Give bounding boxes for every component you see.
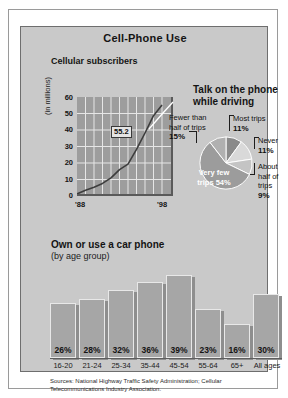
pie-label-most-trips: Most trips 11% (233, 114, 279, 133)
line-chart-ylabel: (in millions) (43, 77, 52, 115)
bar-chart-subtitle: (by age group) (51, 251, 110, 261)
bar-chart-plot-area: 26% 28% 32% 36% 39% (50, 263, 282, 358)
y-tick-0: 0 (53, 191, 73, 200)
y-tick-50: 50 (53, 109, 73, 118)
y-tick-20: 20 (53, 158, 73, 167)
bar-category-16-20: 16-20 (48, 361, 78, 370)
line-chart-title: Cellular subscribers (51, 56, 138, 66)
leader-most-horizontal (229, 115, 234, 116)
pie-label-about-pct: 9% (258, 191, 270, 200)
y-tick-60: 60 (53, 93, 73, 102)
bar-value-16-20: 26% (50, 345, 76, 355)
x-tick-98: '98 (157, 200, 167, 209)
bar-category-35-44: 35-44 (135, 361, 165, 370)
leader-fewer-vertical (196, 131, 197, 143)
bar-category-65-plus: 65+ (222, 361, 252, 370)
bar-category-25-34: 25-34 (106, 361, 136, 370)
bar-category-all-ages: All ages (249, 361, 285, 370)
pie-label-fewer-l2: half of trips (169, 123, 206, 132)
bar-category-55-64: 55-64 (193, 361, 223, 370)
pie-label-fewer-than-half: Fewer than half of trips 15% (169, 113, 227, 142)
pie-label-never-l1: Never (258, 136, 278, 145)
bar-category-45-54: 45-54 (164, 361, 194, 370)
pie-label-about-l1: About (258, 162, 278, 171)
bar-value-25-34: 32% (108, 345, 134, 355)
leader-about-vertical (254, 163, 255, 174)
bar-value-45-54: 39% (166, 345, 192, 355)
sources-note: Sources: National Highway Traffic Safety… (50, 378, 255, 393)
pie-label-very-few-trips: Very few trips 54% (183, 168, 245, 187)
pie-label-about-l2: half of (258, 172, 278, 181)
leader-about-horizontal (250, 174, 255, 175)
pie-label-very-few-l2: trips 54% (197, 178, 230, 187)
bar-chart-baseline (50, 358, 282, 359)
bar-value-65-plus: 16% (224, 345, 250, 355)
pie-label-about-half: About half of trips 9% (258, 162, 288, 200)
chart-panel: Cell-Phone Use Cellular subscribers (in … (20, 26, 268, 372)
leader-most-vertical (229, 115, 230, 131)
pie-label-about-l3: trips (258, 181, 272, 190)
y-tick-10: 10 (53, 175, 73, 184)
y-tick-40: 40 (53, 125, 73, 134)
bar-value-55-64: 23% (195, 345, 221, 355)
bar-value-35-44: 36% (137, 345, 163, 355)
pie-label-very-few-l1: Very few (199, 168, 229, 177)
pie-label-fewer-l1: Fewer than (169, 113, 207, 122)
leader-never-vertical (254, 137, 255, 149)
pie-label-never-pct: 11% (258, 146, 274, 155)
bar-chart-title: Own or use a car phone (51, 239, 164, 250)
infographic-page: Cell-Phone Use Cellular subscribers (in … (0, 0, 288, 398)
bar-value-all-ages: 30% (253, 345, 279, 355)
pie-label-most-l1: Most trips (233, 114, 266, 123)
bar-value-21-24: 28% (79, 345, 105, 355)
pie-label-never: Never 11% (258, 136, 288, 155)
x-tick-88: '88 (75, 200, 85, 209)
pie-label-fewer-pct: 15% (169, 132, 185, 141)
pie-label-most-pct: 11% (233, 124, 249, 133)
leader-fewer-horizontal (189, 131, 197, 132)
leader-never-horizontal (254, 137, 259, 138)
pie-chart-title: Talk on the phone while driving (193, 84, 288, 108)
y-tick-30: 30 (53, 142, 73, 151)
page-title: Cell-Phone Use (21, 32, 269, 44)
bar-category-21-24: 21-24 (77, 361, 107, 370)
